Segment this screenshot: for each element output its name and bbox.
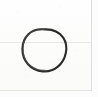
hand-drawn-circle-svg bbox=[0, 0, 98, 97]
scanned-page-canvas: A single closed circle drawn freehand in… bbox=[0, 0, 98, 97]
circle-stroke-group bbox=[22, 29, 66, 71]
ink-layer bbox=[0, 0, 98, 97]
